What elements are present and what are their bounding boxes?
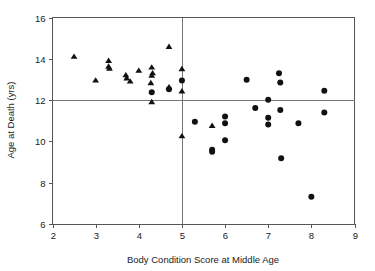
y-axis-ticks (49, 19, 53, 225)
y-tick-label-10: 10 (35, 136, 46, 147)
data-point-circle (265, 115, 271, 121)
data-point-triangle (147, 80, 154, 85)
y-axis-tick-labels: 6810121416 (35, 13, 46, 230)
plot-canvas: 23456789 6810121416 Body Condition Score… (0, 0, 375, 271)
data-point-circle (265, 121, 271, 127)
data-markers (71, 43, 328, 199)
y-tick-label-14: 14 (35, 54, 46, 65)
series-circle (149, 70, 328, 199)
data-point-circle (321, 109, 327, 115)
data-point-circle (295, 120, 301, 126)
x-tick-label-3: 3 (94, 230, 99, 241)
data-point-circle (244, 77, 250, 83)
x-tick-label-5: 5 (180, 230, 185, 241)
data-point-circle (277, 107, 283, 113)
data-point-circle (222, 137, 228, 143)
data-point-triangle (179, 88, 186, 93)
data-point-circle (278, 155, 284, 161)
scatter-plot-figure: 23456789 6810121416 Body Condition Score… (0, 0, 375, 271)
data-point-circle (265, 97, 271, 103)
data-point-triangle (135, 67, 142, 72)
y-tick-label-12: 12 (35, 95, 46, 106)
data-point-triangle (179, 66, 186, 71)
data-point-triangle (148, 64, 155, 69)
x-tick-label-9: 9 (353, 230, 358, 241)
y-axis-title: Age at Death (yrs) (5, 81, 16, 158)
data-point-circle (321, 88, 327, 94)
data-point-triangle (92, 77, 99, 82)
data-point-circle (276, 70, 282, 76)
data-point-circle (308, 194, 314, 200)
data-point-circle (179, 77, 185, 83)
data-point-triangle (71, 53, 78, 58)
reference-lines (53, 18, 355, 225)
y-tick-label-6: 6 (40, 219, 45, 230)
data-point-circle (149, 89, 155, 95)
x-tick-label-6: 6 (223, 230, 228, 241)
data-point-circle (192, 119, 198, 125)
data-point-triangle (166, 43, 173, 48)
data-point-circle (252, 105, 258, 111)
data-point-circle (222, 114, 228, 120)
data-point-triangle (105, 58, 112, 63)
data-point-circle (209, 149, 215, 155)
data-point-triangle (179, 133, 186, 138)
x-axis-tick-labels: 23456789 (51, 230, 358, 241)
data-point-triangle (148, 99, 155, 104)
x-tick-label-7: 7 (266, 230, 271, 241)
x-axis-ticks (54, 224, 356, 228)
data-point-circle (277, 80, 283, 86)
data-point-triangle (209, 123, 216, 128)
plot-frame (53, 18, 355, 225)
x-tick-label-2: 2 (51, 230, 56, 241)
data-point-circle (166, 86, 172, 92)
x-tick-label-4: 4 (137, 230, 142, 241)
data-point-circle (222, 120, 228, 126)
y-tick-label-16: 16 (35, 13, 46, 24)
y-tick-label-8: 8 (40, 178, 45, 189)
x-axis-title: Body Condition Score at Middle Age (127, 254, 279, 265)
x-tick-label-8: 8 (309, 230, 314, 241)
